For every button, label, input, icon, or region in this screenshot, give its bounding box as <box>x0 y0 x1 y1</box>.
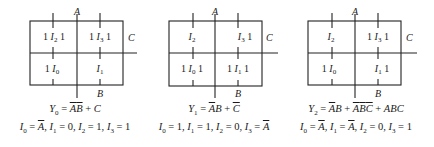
equation-y0: Y0 = AB + C <box>10 103 140 117</box>
equation-y2: Y2 = AB + ABC + ABC <box>278 103 434 117</box>
cell-top-right: 1 I3 1 <box>78 31 122 44</box>
cell-top-left: I2 <box>309 31 353 44</box>
cell-bottom-left: 1 I0 <box>30 63 74 76</box>
cell-top-left: I2 <box>170 31 214 44</box>
kmap-grid: A C B <box>278 0 434 100</box>
cell-bottom-right: 1 I1 1 <box>216 63 260 76</box>
cell-bottom-left: 1 I0 1 <box>170 63 214 76</box>
equation-y1: Y1 = AB + C <box>149 103 279 117</box>
var-label-c: C <box>406 32 413 43</box>
var-label-b: B <box>375 88 381 99</box>
cell-top-right: 1 I3 1 <box>356 31 400 44</box>
var-label-b: B <box>235 88 241 99</box>
kmap-y1: A C B I2 I3 1 1 I0 1 1 I1 1 Y1 = AB + C … <box>139 0 284 147</box>
inputs-y0: I0 = A, I1 = 0, I2 = 1, I3 = 1 <box>0 121 150 135</box>
var-label-a: A <box>351 6 359 17</box>
cell-bottom-right: I1 1 <box>360 63 404 76</box>
var-label-a: A <box>73 6 81 17</box>
kmap-grid: A C B <box>139 0 284 100</box>
cell-top-left: 1 I2 1 <box>32 31 76 44</box>
var-label-c: C <box>128 32 135 43</box>
var-label-a: A <box>211 6 219 17</box>
var-label-b: B <box>97 88 103 99</box>
cell-bottom-left: 1 I0 <box>307 63 351 76</box>
kmap-grid: A C B <box>0 0 145 100</box>
cell-top-right: I3 1 <box>223 31 267 44</box>
inputs-y2: I0 = A, I1 = A, I2 = 0, I3 = 1 <box>278 121 434 135</box>
inputs-y1: I0 = 1, I1 = 1, I2 = 0, I3 = A <box>139 121 289 135</box>
kmap-y2: A C B I2 1 I3 1 1 I0 I1 1 Y2 = AB + ABC … <box>278 0 423 147</box>
kmap-y0: A C B 1 I2 1 1 I3 1 1 I0 I1 Y0 = AB + C … <box>0 0 145 147</box>
cell-bottom-right: I1 <box>78 63 122 76</box>
var-label-c: C <box>266 32 273 43</box>
